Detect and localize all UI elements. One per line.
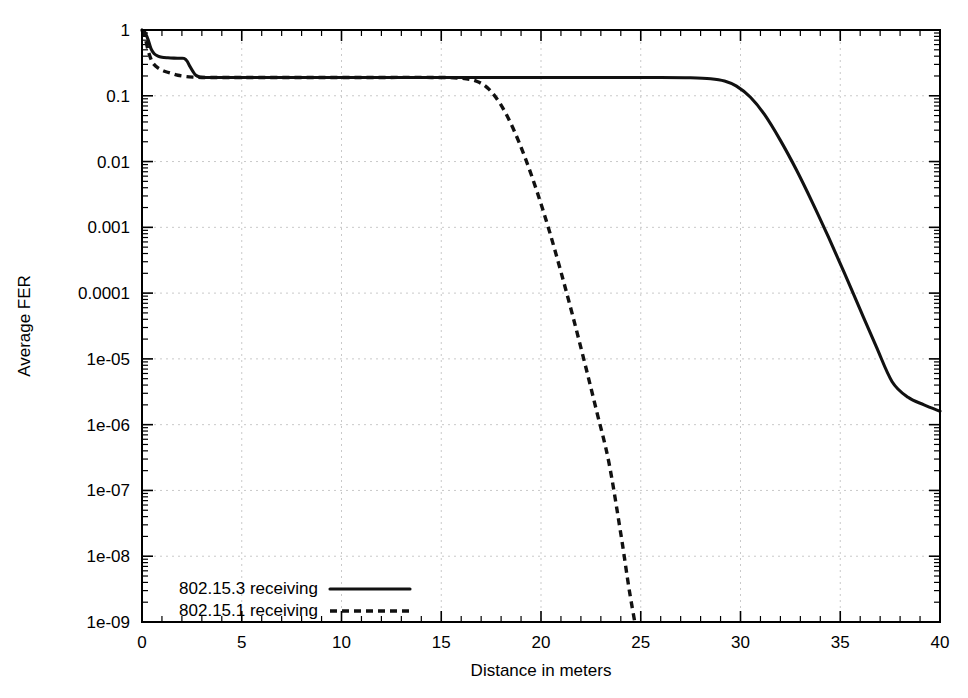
y-tick-label: 0.01 <box>97 153 130 172</box>
legend-label-1: 802.15.3 receiving <box>179 579 318 598</box>
y-tick-label: 1e-06 <box>87 416 130 435</box>
x-tick-label: 25 <box>631 633 650 652</box>
y-tick-label: 1e-07 <box>87 481 130 500</box>
y-tick-label: 1e-05 <box>87 350 130 369</box>
x-tick-label: 30 <box>731 633 750 652</box>
x-tick-label: 35 <box>831 633 850 652</box>
fer-vs-distance-chart: 10.10.010.0010.00011e-051e-061e-071e-081… <box>0 0 968 698</box>
x-axis-title: Distance in meters <box>471 661 612 680</box>
x-tick-label: 40 <box>931 633 950 652</box>
x-tick-label: 10 <box>332 633 351 652</box>
x-tick-label: 5 <box>237 633 246 652</box>
x-tick-label: 20 <box>532 633 551 652</box>
x-tick-label: 15 <box>432 633 451 652</box>
y-axis-title: Average FER <box>15 275 34 377</box>
chart-background <box>0 0 968 698</box>
y-tick-label: 0.001 <box>87 218 130 237</box>
y-tick-label: 1e-08 <box>87 547 130 566</box>
y-tick-label: 0.1 <box>106 87 130 106</box>
legend-label-2: 802.15.1 receiving <box>179 601 318 620</box>
y-tick-label: 1 <box>121 21 130 40</box>
x-tick-label: 0 <box>137 633 146 652</box>
y-tick-label: 1e-09 <box>87 613 130 632</box>
y-tick-label: 0.0001 <box>78 284 130 303</box>
chart-figure: 10.10.010.0010.00011e-051e-061e-071e-081… <box>0 0 968 698</box>
